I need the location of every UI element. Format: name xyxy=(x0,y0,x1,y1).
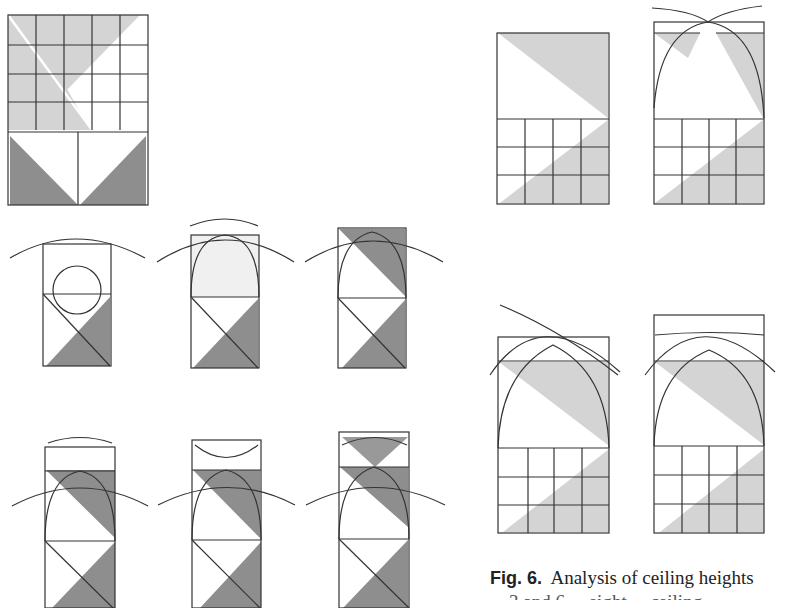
panel-c3 xyxy=(339,432,409,608)
figure-label: Fig. 6. xyxy=(490,568,542,588)
panel-d1 xyxy=(497,33,609,204)
panel-e1 xyxy=(490,305,620,533)
figure-caption: Fig. 6. Analysis of ceiling heights ... … xyxy=(490,566,754,608)
panel-a xyxy=(8,15,148,205)
panel-b2 xyxy=(191,235,259,368)
caption-text-line2: ... 3 and 6 ... eight ... ceiling ... xyxy=(490,590,754,608)
panel-c2 xyxy=(192,440,261,608)
panel-d2 xyxy=(652,6,764,204)
panel-e2 xyxy=(645,315,775,533)
caption-text: Analysis of ceiling heights xyxy=(550,567,753,588)
figure-6-diagrams: .ln { stroke:#333; stroke-width:1.2; fil… xyxy=(0,0,800,608)
